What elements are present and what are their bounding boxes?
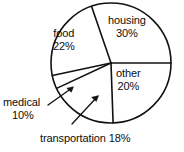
pie-slice-value-food: 22%: [53, 40, 75, 53]
pie-slice-label-transportation: transportation 18%: [40, 132, 131, 145]
leader-arrowhead-transportation: [92, 96, 99, 102]
pie-chart: housing 30% food 22% other 20% medical 1…: [0, 0, 184, 152]
pie-slice-name-other: other: [116, 67, 141, 80]
pie-slice-value-medical: 10%: [3, 109, 40, 122]
pie-slice-label-food: food 22%: [53, 27, 75, 52]
slice-divider-medical-food: [52, 63, 111, 76]
pie-slice-value-other: 20%: [116, 80, 141, 93]
pie-slice-value-housing: 30%: [108, 27, 146, 40]
slice-divider-transportation-medical: [57, 63, 111, 88]
leader-line-medical: [48, 88, 72, 105]
pie-chart-graphic: [0, 0, 184, 152]
pie-slice-name-medical: medical: [3, 96, 40, 109]
pie-slice-name-housing: housing: [108, 14, 146, 27]
slice-divider-other-transportation: [111, 63, 113, 123]
pie-slice-name-food: food: [53, 27, 75, 40]
pie-slice-label-medical: medical 10%: [3, 96, 40, 121]
pie-slice-label-other: other 20%: [116, 67, 141, 92]
pie-slice-label-housing: housing 30%: [108, 14, 146, 39]
